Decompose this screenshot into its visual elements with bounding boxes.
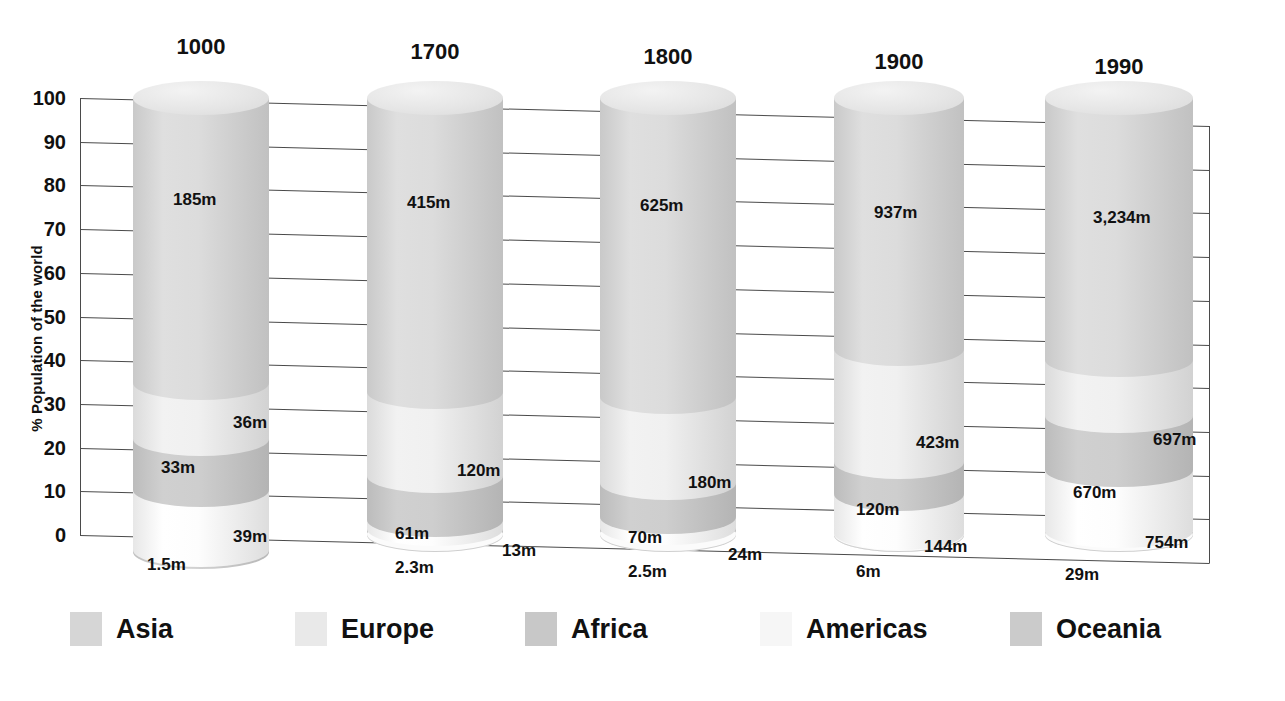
year-label-1000: 1000 <box>133 34 269 60</box>
y-tick-40: 40 <box>20 350 66 370</box>
y-tick-50: 50 <box>20 307 66 327</box>
segment-body <box>133 98 269 383</box>
segment-bottom-cap <box>834 332 964 366</box>
cylinder-top-cap <box>600 81 736 115</box>
value-label-1700-americas: 13m <box>502 541 536 561</box>
segment-bottom-cap <box>600 500 736 534</box>
legend-label: Africa <box>571 616 648 643</box>
legend-item-americas[interactable]: Americas <box>760 612 928 646</box>
cylinder-1990[interactable] <box>1045 98 1193 535</box>
legend-item-africa[interactable]: Africa <box>525 612 648 646</box>
value-label-1800-africa: 70m <box>628 528 662 548</box>
segment-1800-asia[interactable] <box>600 98 736 397</box>
value-label-1800-asia: 625m <box>640 196 683 216</box>
cylinder-top-cap <box>133 81 269 115</box>
value-label-1900-asia: 937m <box>874 203 917 223</box>
y-tick-30: 30 <box>20 394 66 414</box>
y-axis-tick-labels: 1009080706050403020100 <box>18 0 66 701</box>
year-label-1900: 1900 <box>834 49 964 75</box>
cylinder-top-cap <box>834 81 964 115</box>
value-label-1000-asia: 185m <box>173 190 216 210</box>
segment-body <box>367 98 503 392</box>
value-label-1900-americas: 144m <box>924 537 967 557</box>
segment-bottom-cap <box>1045 399 1193 433</box>
value-label-1990-oceania: 29m <box>1065 565 1099 585</box>
value-label-1800-americas: 24m <box>728 545 762 565</box>
y-tick-100: 100 <box>20 88 66 108</box>
value-label-1700-oceania: 2.3m <box>395 558 434 578</box>
cylinder-top-cap <box>367 81 503 115</box>
y-tick-10: 10 <box>20 481 66 501</box>
y-tick-0: 0 <box>20 525 66 545</box>
segment-1900-asia[interactable] <box>834 98 964 349</box>
value-label-1000-oceania: 1.5m <box>147 555 186 575</box>
value-label-1700-africa: 61m <box>395 524 429 544</box>
segment-bottom-cap <box>133 473 269 507</box>
legend-label: Americas <box>806 616 928 643</box>
y-tick-20: 20 <box>20 438 66 458</box>
y-tick-80: 80 <box>20 175 66 195</box>
value-label-1900-africa: 120m <box>856 500 899 520</box>
legend-label: Oceania <box>1056 616 1161 643</box>
value-label-1990-europe: 697m <box>1153 430 1196 450</box>
segment-body <box>834 98 964 349</box>
cylinder-1900[interactable] <box>834 98 964 535</box>
legend-label: Asia <box>116 616 173 643</box>
y-tick-70: 70 <box>20 219 66 239</box>
cylinder-1000[interactable] <box>133 98 269 535</box>
legend-swatch-icon <box>70 612 102 646</box>
segment-body <box>1045 98 1193 360</box>
value-label-1800-oceania: 2.5m <box>628 562 667 582</box>
value-label-1990-asia: 3,234m <box>1093 208 1151 228</box>
cylinder-1800[interactable] <box>600 98 736 535</box>
year-label-1800: 1800 <box>600 44 736 70</box>
chart-legend: AsiaEuropeAfricaAmericasOceania <box>0 612 1285 666</box>
y-tick-60: 60 <box>20 263 66 283</box>
value-label-1000-africa: 33m <box>161 458 195 478</box>
segment-1990-asia[interactable] <box>1045 98 1193 360</box>
legend-label: Europe <box>341 616 434 643</box>
legend-swatch-icon <box>295 612 327 646</box>
value-label-1990-americas: 754m <box>1145 533 1188 553</box>
value-label-1990-africa: 670m <box>1073 483 1116 503</box>
legend-swatch-icon <box>525 612 557 646</box>
segment-bottom-cap <box>1045 343 1193 377</box>
y-tick-90: 90 <box>20 132 66 152</box>
value-label-1800-europe: 180m <box>688 473 731 493</box>
segment-1000-asia[interactable] <box>133 98 269 383</box>
value-label-1000-americas: 39m <box>233 527 267 547</box>
segment-bottom-cap <box>367 375 503 409</box>
value-label-1900-europe: 423m <box>916 433 959 453</box>
value-label-1700-asia: 415m <box>407 193 450 213</box>
segment-bottom-cap <box>367 503 503 537</box>
year-label-1990: 1990 <box>1045 54 1193 80</box>
cylinder-top-cap <box>1045 81 1193 115</box>
legend-swatch-icon <box>1010 612 1042 646</box>
legend-swatch-icon <box>760 612 792 646</box>
segment-body <box>600 98 736 397</box>
legend-item-asia[interactable]: Asia <box>70 612 173 646</box>
population-stacked-cylinder-chart: % Population of the world 10090807060504… <box>0 0 1285 701</box>
value-label-1900-oceania: 6m <box>856 562 881 582</box>
legend-item-oceania[interactable]: Oceania <box>1010 612 1161 646</box>
value-label-1700-europe: 120m <box>457 461 500 481</box>
segment-1700-asia[interactable] <box>367 98 503 392</box>
year-label-1700: 1700 <box>367 39 503 65</box>
value-label-1000-europe: 36m <box>233 413 267 433</box>
legend-item-europe[interactable]: Europe <box>295 612 434 646</box>
